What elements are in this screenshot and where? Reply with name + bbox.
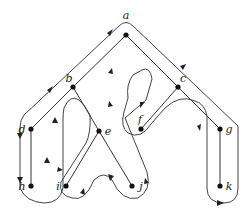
arrow-icon [108,101,113,107]
tree-nodes [28,32,222,188]
arrow-icon [108,68,113,74]
node-f [138,126,143,131]
node-label-k: k [226,180,233,193]
tree-edges [31,35,220,186]
node-h [28,183,33,188]
node-c [175,84,180,89]
edge-b-e [73,87,99,131]
edge-e-i [66,131,99,186]
node-label-b: b [65,72,72,85]
arrow-icon [52,117,58,123]
arrow-icon [57,167,63,172]
node-label-e: e [105,125,112,138]
edge-c-f [141,87,178,129]
tree-traversal-diagram: abcdefghijk [0,0,249,213]
node-a [123,32,128,37]
node-d [28,126,33,131]
edge-e-j [99,131,132,186]
node-i [63,183,68,188]
arrow-icon [197,124,201,131]
node-label-h: h [18,180,25,193]
traversal-path [20,23,238,204]
node-label-f: f [137,113,144,126]
node-label-a: a [123,9,130,22]
arrow-icon [140,102,145,108]
node-g [217,126,222,131]
arrow-icon [217,200,224,206]
edge-c-g [178,87,220,129]
node-label-g: g [225,123,232,136]
arrow-icon [44,157,50,163]
node-label-i: i [56,180,60,193]
node-j [129,183,134,188]
arrow-icon [80,188,85,195]
node-label-c: c [180,72,186,85]
edge-b-d [31,87,73,129]
node-k [217,183,222,188]
arrow-icon [180,64,186,70]
node-label-j: j [136,180,143,193]
node-e [96,128,101,133]
node-b [70,84,75,89]
node-label-d: d [18,123,25,136]
traversal-arrows [17,29,224,206]
